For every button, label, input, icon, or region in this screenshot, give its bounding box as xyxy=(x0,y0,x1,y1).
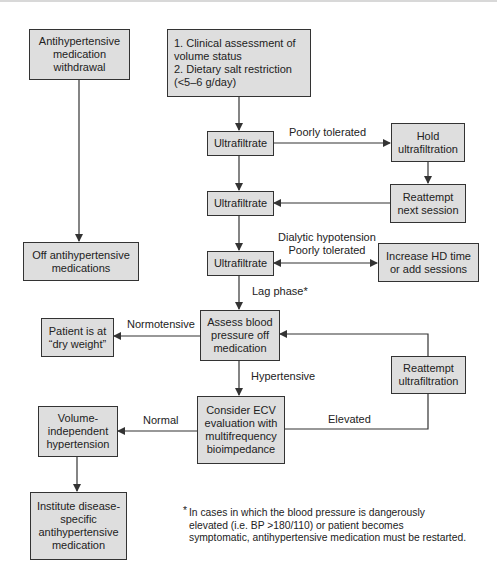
node-label: Volume- independent hypertension xyxy=(47,412,110,451)
footnote-marker: * xyxy=(183,505,187,518)
node-institute-medication: Institute disease- specific antihyperten… xyxy=(30,492,127,560)
edge-label-lag-phase: Lag phase* xyxy=(252,285,308,298)
node-label: Increase HD time or add sessions xyxy=(386,250,471,276)
node-reattempt-ultrafiltration: Reattempt ultrafiltration xyxy=(391,356,466,394)
node-label: Reattempt next session xyxy=(397,191,458,217)
node-label: 1. Clinical assessment of volume status … xyxy=(174,37,296,89)
node-clinical-assessment: 1. Clinical assessment of volume status … xyxy=(167,29,311,97)
edge-label-dialytic-hypotension: Dialytic hypotension Poorly tolerated xyxy=(278,231,376,257)
node-ultrafiltrate-2: Ultrafiltrate xyxy=(207,191,274,216)
node-label: Antihypertensive medication withdrawal xyxy=(39,35,120,74)
node-hold-ultrafiltration: Hold ultrafiltration xyxy=(391,123,465,162)
node-off-antihypertensive: Off antihypertensive medications xyxy=(23,242,139,281)
footnote-text: In cases in which the blood pressure is … xyxy=(189,507,466,545)
node-assess-blood-pressure: Assess blood pressure off medication xyxy=(200,310,280,361)
node-increase-hd-time: Increase HD time or add sessions xyxy=(378,243,479,282)
edge-label-elevated: Elevated xyxy=(328,413,371,426)
node-consider-ecv: Consider ECV evaluation with multifreque… xyxy=(197,396,285,464)
edge-label-normotensive: Normotensive xyxy=(127,318,195,331)
node-label: Ultrafiltrate xyxy=(214,197,267,210)
node-label: Institute disease- specific antihyperten… xyxy=(37,500,120,552)
node-label: Patient is at “dry weight” xyxy=(49,325,106,351)
node-dry-weight: Patient is at “dry weight” xyxy=(41,318,114,357)
node-ultrafiltrate-3: Ultrafiltrate xyxy=(207,251,274,276)
edge-label-poorly-tolerated: Poorly tolerated xyxy=(289,126,366,139)
node-label: Hold ultrafiltration xyxy=(398,130,458,156)
node-label: Ultrafiltrate xyxy=(214,257,267,270)
edge-label-hypertensive: Hypertensive xyxy=(251,370,315,383)
node-reattempt-next-session: Reattempt next session xyxy=(390,184,466,223)
node-medication-withdrawal: Antihypertensive medication withdrawal xyxy=(29,29,130,80)
node-label: Reattempt ultrafiltration xyxy=(399,362,459,388)
node-label: Ultrafiltrate xyxy=(214,137,267,150)
edge-label-normal: Normal xyxy=(143,414,178,427)
node-label: Assess blood pressure off medication xyxy=(207,316,272,355)
node-label: Off antihypertensive medications xyxy=(32,249,130,275)
node-volume-independent-hypertension: Volume- independent hypertension xyxy=(38,406,118,457)
node-label: Consider ECV evaluation with multifreque… xyxy=(205,404,278,456)
node-ultrafiltrate-1: Ultrafiltrate xyxy=(207,131,274,156)
